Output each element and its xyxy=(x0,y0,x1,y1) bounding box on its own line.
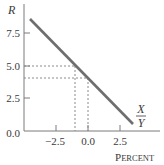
y-tick-label: 7.5 xyxy=(6,27,20,39)
x-tick-label: 2.5 xyxy=(113,135,127,147)
y-tick-label: 0.0 xyxy=(6,127,20,139)
x-axis-title: PERCENT xyxy=(115,151,155,163)
y-tick-label: 2.5 xyxy=(6,92,20,104)
chart: 0.0 2.5 5.0 7.5 −2.5 0.0 2.5 R PERCENT X… xyxy=(0,0,164,165)
y-axis-title: R xyxy=(7,3,16,17)
y-tick-label: 5.0 xyxy=(6,60,20,72)
x-tick-label: −2.5 xyxy=(45,135,65,147)
data-line-x-over-y xyxy=(30,19,133,124)
line-label-denominator: Y xyxy=(138,116,146,130)
x-axis-title-rest: ERCENT xyxy=(121,153,155,163)
x-tick-label: 0.0 xyxy=(81,135,95,147)
line-label-numerator: X xyxy=(136,102,145,116)
